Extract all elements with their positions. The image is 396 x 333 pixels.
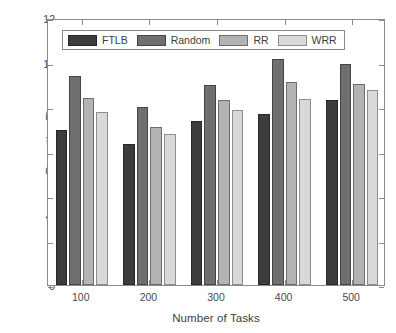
bar-random-500 xyxy=(340,64,352,285)
x-tick-mark xyxy=(82,20,83,25)
bar-rr-500 xyxy=(353,84,365,285)
y-tick-mark xyxy=(48,20,53,21)
x-tick-label: 100 xyxy=(51,291,111,303)
bar-random-100 xyxy=(69,76,81,285)
y-tick-mark xyxy=(48,109,53,110)
legend-swatch-icon xyxy=(68,35,97,46)
plot-inner xyxy=(48,20,384,285)
bar-wrr-200 xyxy=(164,134,176,285)
x-tick-mark xyxy=(352,20,353,25)
legend-entry-rr[interactable]: RR xyxy=(219,34,268,46)
x-tick-label: 200 xyxy=(118,291,178,303)
x-tick-mark xyxy=(217,20,218,25)
x-tick-mark xyxy=(149,20,150,25)
y-tick-mark xyxy=(48,65,53,66)
x-tick-label: 500 xyxy=(321,291,381,303)
legend-swatch-icon xyxy=(278,35,307,46)
bar-ftlb-300 xyxy=(191,121,203,285)
y-tick-mark xyxy=(48,154,53,155)
bar-rr-200 xyxy=(150,127,162,285)
x-tick-label: 400 xyxy=(254,291,314,303)
y-tick-mark xyxy=(48,198,53,199)
bar-rr-400 xyxy=(286,82,298,285)
bar-random-200 xyxy=(137,107,149,285)
bar-ftlb-100 xyxy=(56,130,68,285)
y-tick-mark xyxy=(379,109,384,110)
x-tick-mark xyxy=(285,20,286,25)
y-tick-mark xyxy=(48,243,53,244)
bar-chart-figure: Average Execution Time Number of Tasks 0… xyxy=(0,0,396,333)
legend-entry-random[interactable]: Random xyxy=(137,34,211,46)
legend-swatch-icon xyxy=(137,35,166,46)
y-tick-mark xyxy=(379,287,384,288)
bar-rr-300 xyxy=(218,100,230,285)
plot-area: FTLBRandomRRWRR xyxy=(47,19,385,286)
legend-swatch-icon xyxy=(219,35,248,46)
chart-legend: FTLBRandomRRWRR xyxy=(62,30,345,50)
bar-ftlb-200 xyxy=(123,144,135,285)
bar-ftlb-400 xyxy=(258,114,270,285)
bar-rr-100 xyxy=(83,98,95,285)
bar-random-300 xyxy=(204,85,216,285)
bar-wrr-100 xyxy=(96,112,108,285)
y-tick-mark xyxy=(379,243,384,244)
y-tick-mark xyxy=(379,65,384,66)
legend-label: WRR xyxy=(312,34,337,46)
y-tick-mark xyxy=(379,154,384,155)
bar-random-400 xyxy=(272,59,284,286)
x-axis-title: Number of Tasks xyxy=(47,312,385,324)
bar-wrr-400 xyxy=(299,99,311,285)
bar-ftlb-500 xyxy=(326,100,338,285)
legend-label: Random xyxy=(171,34,211,46)
y-tick-mark xyxy=(48,287,53,288)
bar-wrr-300 xyxy=(232,110,244,285)
y-tick-mark xyxy=(379,198,384,199)
x-tick-label: 300 xyxy=(186,291,246,303)
legend-label: RR xyxy=(253,34,268,46)
legend-label: FTLB xyxy=(102,34,128,46)
y-tick-mark xyxy=(379,20,384,21)
legend-entry-ftlb[interactable]: FTLB xyxy=(68,34,128,46)
legend-entry-wrr[interactable]: WRR xyxy=(278,34,337,46)
bar-wrr-500 xyxy=(367,90,379,285)
